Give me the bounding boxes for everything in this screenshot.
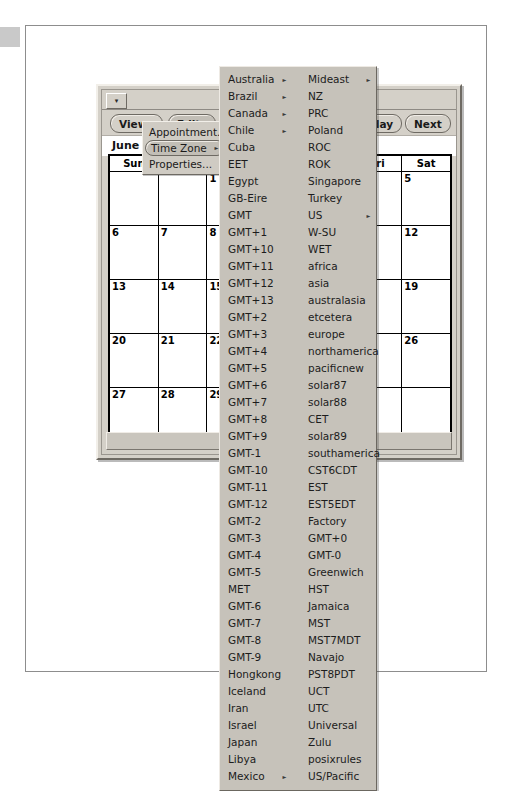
calendar-empty-cell[interactable] [110,172,159,226]
timezone-menu-item[interactable]: GMT-7 [220,615,298,632]
calendar-day-cell[interactable]: 7 [158,226,207,280]
calendar-empty-cell[interactable] [158,172,207,226]
timezone-menu-item[interactable]: GMT-9 [220,649,298,666]
timezone-menu-item[interactable]: ROC [298,139,376,156]
timezone-menu-item[interactable]: Jamaica [298,598,376,615]
timezone-menu-item[interactable]: MST7MDT [298,632,376,649]
timezone-menu-item[interactable]: GMT-11 [220,479,298,496]
timezone-menu-item[interactable]: EST [298,479,376,496]
timezone-menu-item[interactable]: Turkey [298,190,376,207]
timezone-menu-item[interactable]: Israel [220,717,298,734]
timezone-menu-item[interactable]: Zulu [298,734,376,751]
timezone-menu-item[interactable]: GMT-0 [298,547,376,564]
edit-menu-item-appointment[interactable]: Appointment... [143,124,227,140]
timezone-menu-item[interactable]: GMT-12 [220,496,298,513]
timezone-menu-item[interactable]: W-SU [298,224,376,241]
timezone-menu-item[interactable]: europe [298,326,376,343]
timezone-menu-item[interactable]: GMT+0 [298,530,376,547]
calendar-day-cell[interactable]: 26 [402,334,451,388]
timezone-menu-item[interactable]: Brazil▸ [220,88,298,105]
timezone-menu-item[interactable]: HST [298,581,376,598]
timezone-menu-item[interactable]: Greenwich [298,564,376,581]
timezone-menu-item[interactable]: Poland [298,122,376,139]
timezone-menu-item[interactable]: UCT [298,683,376,700]
timezone-menu-item[interactable]: Australia▸ [220,71,298,88]
edit-menu-item-time-zone[interactable]: Time Zone▸ [145,140,225,156]
calendar-day-cell[interactable]: 21 [158,334,207,388]
timezone-menu-item[interactable]: GMT-8 [220,632,298,649]
timezone-menu-item[interactable]: Japan [220,734,298,751]
timezone-menu-item[interactable]: posixrules [298,751,376,768]
calendar-day-cell[interactable]: 19 [402,280,451,334]
timezone-menu-item[interactable]: Mideast▸ [298,71,376,88]
timezone-menu-item[interactable]: NZ [298,88,376,105]
timezone-menu-item[interactable]: GMT+1 [220,224,298,241]
timezone-menu-item[interactable]: EET [220,156,298,173]
timezone-menu-item[interactable]: GMT-10 [220,462,298,479]
timezone-menu-item[interactable]: GMT-5 [220,564,298,581]
timezone-menu-item[interactable]: solar88 [298,394,376,411]
calendar-day-cell[interactable]: 12 [402,226,451,280]
timezone-menu-item[interactable]: etcetera [298,309,376,326]
timezone-menu-item[interactable]: GMT-2 [220,513,298,530]
timezone-menu-item[interactable]: GMT+13 [220,292,298,309]
timezone-menu-item[interactable]: solar87 [298,377,376,394]
timezone-menu-item[interactable]: CST6CDT [298,462,376,479]
timezone-menu-item[interactable]: Libya [220,751,298,768]
timezone-menu-item[interactable]: Canada▸ [220,105,298,122]
calendar-day-cell[interactable]: 20 [110,334,159,388]
timezone-menu-item[interactable]: GMT+12 [220,275,298,292]
timezone-menu-item[interactable]: Chile▸ [220,122,298,139]
timezone-menu-item[interactable]: PST8PDT [298,666,376,683]
timezone-menu-item[interactable]: ROK [298,156,376,173]
timezone-menu-item[interactable]: WET [298,241,376,258]
timezone-menu-item[interactable]: GMT [220,207,298,224]
timezone-menu-item[interactable]: Factory [298,513,376,530]
timezone-menu-item[interactable]: solar89 [298,428,376,445]
timezone-menu-item[interactable]: GMT+3 [220,326,298,343]
timezone-menu-item[interactable]: GMT+8 [220,411,298,428]
timezone-menu-item[interactable]: US▸ [298,207,376,224]
next-button[interactable]: Next [405,114,451,133]
timezone-menu-item[interactable]: Cuba [220,139,298,156]
calendar-day-cell[interactable]: 14 [158,280,207,334]
timezone-menu-item[interactable]: Singapore [298,173,376,190]
timezone-menu-item[interactable]: GMT-4 [220,547,298,564]
timezone-menu-item[interactable]: Navajo [298,649,376,666]
edit-menu-item-properties[interactable]: Properties... [143,156,227,172]
timezone-menu-item[interactable]: MET [220,581,298,598]
timezone-menu-item[interactable]: GMT+4 [220,343,298,360]
timezone-menu-item[interactable]: GMT+7 [220,394,298,411]
timezone-menu-item[interactable]: africa [298,258,376,275]
timezone-menu-item[interactable]: GMT+5 [220,360,298,377]
timezone-menu-item[interactable]: GMT+10 [220,241,298,258]
timezone-menu-item[interactable]: UTC [298,700,376,717]
timezone-menu-item[interactable]: US/Pacific [298,768,376,785]
timezone-menu-item[interactable]: Hongkong [220,666,298,683]
timezone-menu-item[interactable]: Iceland [220,683,298,700]
calendar-day-cell[interactable]: 13 [110,280,159,334]
timezone-menu-item[interactable]: australasia [298,292,376,309]
timezone-menu-item[interactable]: asia [298,275,376,292]
timezone-menu-item[interactable]: northamerica [298,343,376,360]
timezone-menu-item[interactable]: Universal [298,717,376,734]
timezone-menu-item[interactable]: GMT-3 [220,530,298,547]
timezone-menu-item[interactable]: MST [298,615,376,632]
timezone-menu-item[interactable]: CET [298,411,376,428]
timezone-menu-item[interactable]: GMT-1 [220,445,298,462]
timezone-menu-item[interactable]: GMT+6 [220,377,298,394]
timezone-menu-item[interactable]: GMT+11 [220,258,298,275]
timezone-menu-item[interactable]: EST5EDT [298,496,376,513]
timezone-menu-item[interactable]: GMT-6 [220,598,298,615]
calendar-day-cell[interactable]: 5 [402,172,451,226]
timezone-menu-item[interactable]: GB-Eire [220,190,298,207]
calendar-day-cell[interactable]: 6 [110,226,159,280]
timezone-menu-item[interactable]: GMT+2 [220,309,298,326]
timezone-menu-item[interactable]: Iran [220,700,298,717]
timezone-menu-item[interactable]: Mexico▸ [220,768,298,785]
timezone-menu-item[interactable]: GMT+9 [220,428,298,445]
timezone-menu-item[interactable]: PRC [298,105,376,122]
timezone-menu-item[interactable]: pacificnew [298,360,376,377]
timezone-menu-item[interactable]: southamerica [298,445,376,462]
timezone-menu-item[interactable]: Egypt [220,173,298,190]
